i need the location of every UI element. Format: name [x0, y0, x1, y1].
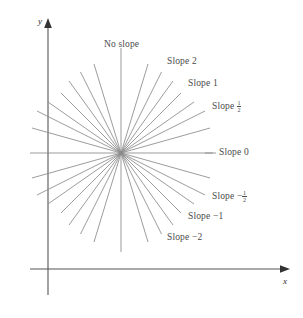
fraction-numerator: 1 — [242, 190, 246, 197]
label-slope-0: Slope 0 — [219, 148, 249, 158]
fraction-denominator: 2 — [237, 107, 241, 113]
label-slope-neg-2: Slope −2 — [167, 233, 202, 243]
x-axis-label: x — [283, 276, 287, 286]
label-slope-1: Slope 1 — [188, 79, 218, 89]
fraction-one-half: 12 — [237, 100, 241, 113]
label-no-slope: No slope — [104, 40, 139, 50]
fraction-neg-one-half: 12 — [242, 190, 246, 203]
figure-canvas: No slope Slope 2 Slope 1 Slope 12 Slope … — [0, 0, 303, 318]
label-slope-one-half: Slope 12 — [212, 100, 241, 113]
y-axis-label: y — [38, 16, 42, 26]
label-slope-2: Slope 2 — [167, 57, 197, 67]
fraction-denominator: 2 — [242, 197, 246, 203]
label-slope-neg-one-half: Slope −12 — [212, 190, 247, 203]
x-axis-arrowhead — [280, 265, 290, 273]
label-slope-neg-one-half-text: Slope − — [212, 191, 242, 201]
label-slope-neg-1: Slope −1 — [188, 212, 223, 222]
y-axis-arrowhead — [44, 18, 52, 28]
slope-ray-group — [30, 48, 213, 252]
slope-fan-svg — [0, 0, 303, 318]
fraction-numerator: 1 — [237, 100, 241, 107]
label-slope-one-half-text: Slope — [212, 101, 237, 111]
coordinate-axes — [30, 18, 290, 295]
